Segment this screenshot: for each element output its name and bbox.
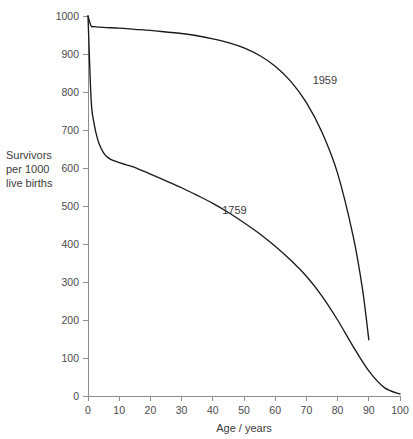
annotation-1959: 1959 xyxy=(313,74,337,86)
y-tick-label: 100 xyxy=(61,352,79,364)
x-axis-ticks: 0102030405060708090100 xyxy=(85,396,409,416)
y-tick-label: 600 xyxy=(61,162,79,174)
chart-canvas: 01002003004005006007008009001000 0102030… xyxy=(0,0,413,439)
y-axis-ticks: 01002003004005006007008009001000 xyxy=(56,10,88,402)
x-tick-label: 30 xyxy=(176,404,188,416)
x-tick-label: 90 xyxy=(363,404,375,416)
y-tick-label: 700 xyxy=(61,124,79,136)
x-tick-label: 100 xyxy=(391,404,409,416)
x-tick-label: 40 xyxy=(207,404,219,416)
curve-1959 xyxy=(88,16,369,340)
y-tick-label: 300 xyxy=(61,276,79,288)
y-tick-label: 1000 xyxy=(56,10,80,22)
y-tick-label: 900 xyxy=(61,48,79,60)
survivorship-curve-figure: Survivors per 1000 live births 010020030… xyxy=(0,0,413,439)
y-tick-label: 400 xyxy=(61,238,79,250)
x-tick-label: 20 xyxy=(145,404,157,416)
x-tick-label: 80 xyxy=(332,404,344,416)
x-tick-label: 0 xyxy=(85,404,91,416)
y-tick-label: 800 xyxy=(61,86,79,98)
series-annotations: 17591959 xyxy=(222,74,337,216)
x-tick-label: 50 xyxy=(238,404,250,416)
x-tick-label: 70 xyxy=(301,404,313,416)
y-tick-label: 200 xyxy=(61,314,79,326)
annotation-1759: 1759 xyxy=(222,204,246,216)
x-tick-label: 60 xyxy=(269,404,281,416)
y-tick-label: 0 xyxy=(73,390,79,402)
x-tick-label: 10 xyxy=(113,404,125,416)
y-tick-label: 500 xyxy=(61,200,79,212)
x-axis-title: Age / years xyxy=(216,422,272,434)
